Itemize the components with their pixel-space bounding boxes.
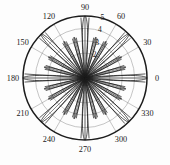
radial-label-3: 3 bbox=[95, 38, 99, 47]
angle-label-180: 180 bbox=[7, 74, 19, 83]
angle-label-150: 150 bbox=[17, 38, 29, 47]
radial-label-5: 5 bbox=[100, 13, 104, 22]
angle-label-120: 120 bbox=[43, 12, 55, 21]
angle-label-300: 300 bbox=[115, 135, 127, 144]
angle-label-90: 90 bbox=[81, 3, 89, 12]
angle-label-60: 60 bbox=[117, 12, 125, 21]
polar-plot-figure: 0306090120150180210240270300330 2345 bbox=[0, 0, 170, 165]
angle-label-0: 0 bbox=[155, 74, 159, 83]
angle-label-30: 30 bbox=[143, 38, 151, 47]
polar-chart-canvas: 0306090120150180210240270300330 2345 bbox=[0, 0, 170, 165]
angle-label-270: 270 bbox=[79, 145, 91, 154]
angle-label-240: 240 bbox=[43, 135, 55, 144]
angle-label-210: 210 bbox=[17, 109, 29, 118]
radial-label-4: 4 bbox=[98, 25, 102, 34]
angle-label-330: 330 bbox=[141, 109, 153, 118]
radial-label-2: 2 bbox=[93, 50, 97, 59]
